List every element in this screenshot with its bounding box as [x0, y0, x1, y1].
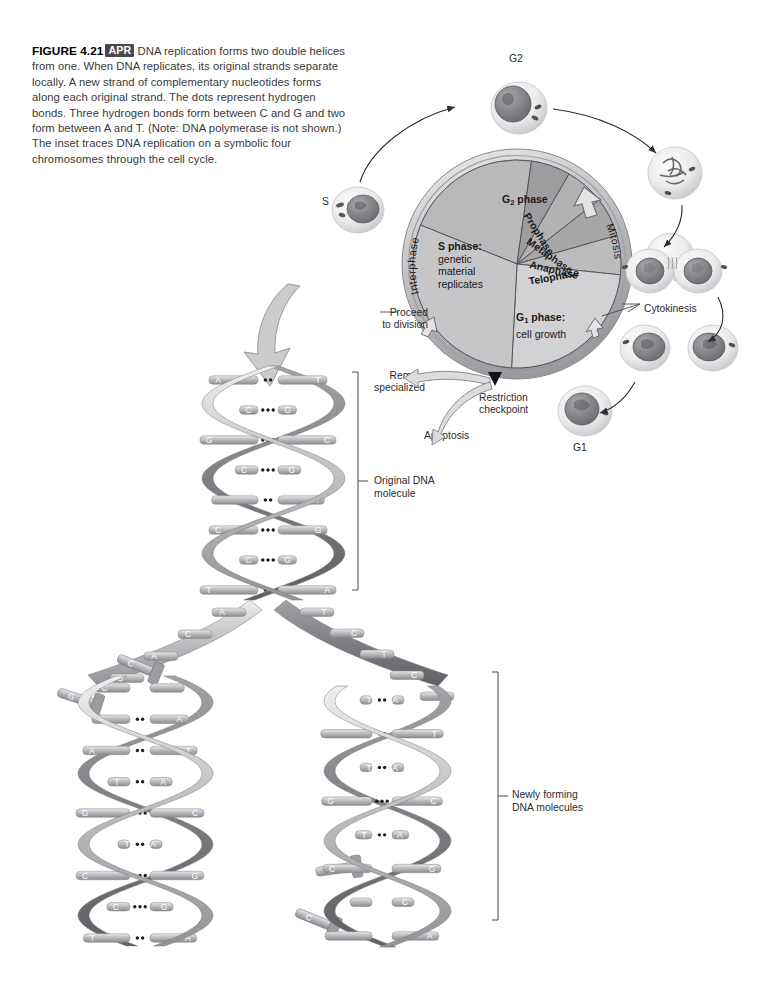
svg-text:C: C — [192, 808, 198, 818]
label-newly-forming-dna: Newly formingDNA molecules — [512, 789, 583, 814]
svg-text:A: A — [150, 839, 156, 849]
fork-base-right-3: C — [390, 670, 424, 680]
cell-caption-s: S — [322, 196, 329, 207]
svg-text:G: G — [82, 808, 89, 818]
cell-g2-phase — [491, 82, 547, 134]
svg-text:C: C — [329, 864, 335, 874]
right-helix-strand-front — [324, 686, 451, 947]
cell-cytokinesis — [621, 234, 727, 293]
svg-text:A: A — [427, 931, 433, 941]
svg-text:T: T — [366, 695, 371, 705]
svg-text:A: A — [219, 607, 225, 617]
svg-text:T: T — [362, 830, 367, 840]
base-pair-original-1: CG — [239, 405, 296, 415]
svg-text:T: T — [114, 777, 119, 787]
svg-text:A: A — [177, 714, 183, 724]
svg-text:G: G — [206, 435, 213, 445]
svg-text:A: A — [397, 830, 403, 840]
base-pair-left-0: C — [96, 683, 185, 693]
svg-text:C: C — [351, 628, 357, 638]
dna-replication-illustration: ATCGGCCGACGCGTAACAGTCTCGCGCCCTAATTAGCTAC… — [0, 300, 774, 988]
base-pair-right-0: TA — [360, 695, 404, 705]
svg-text:G: G — [284, 405, 291, 415]
svg-text:G: G — [192, 871, 199, 881]
original-strand-back — [202, 366, 345, 600]
svg-text:C: C — [411, 670, 417, 680]
svg-text:T: T — [206, 585, 211, 595]
base-pair-original-3: CG — [235, 465, 301, 475]
svg-text:C: C — [245, 555, 251, 565]
svg-text:C: C — [185, 629, 191, 639]
base-pair-right-4: TA — [355, 830, 409, 840]
fork-base-left-1: C — [178, 629, 212, 639]
svg-text:A: A — [160, 777, 166, 787]
svg-text:A: A — [151, 651, 157, 661]
fork-base-left-0: A — [212, 607, 246, 617]
svg-text:T: T — [124, 839, 129, 849]
svg-text:T: T — [316, 375, 321, 385]
svg-text:C: C — [430, 796, 436, 806]
base-pair-original-6: CG — [239, 555, 296, 565]
svg-text:C: C — [113, 902, 119, 912]
base-pair-right-6: C — [350, 897, 414, 907]
figure-caption-text: DNA replication forms two double helices… — [32, 45, 345, 165]
svg-text:A: A — [215, 375, 221, 385]
figure-number: FIGURE 4.21 — [32, 44, 103, 58]
svg-text:T: T — [90, 933, 95, 943]
base-pair-left-7: CG — [107, 902, 173, 912]
apr-badge: APR — [105, 44, 134, 57]
svg-text:G: G — [161, 902, 168, 912]
svg-text:G: G — [315, 525, 322, 535]
right-helix-strand-back — [324, 686, 451, 947]
fork-base-right-1: C — [330, 628, 364, 638]
base-pair-right-2: TA — [360, 763, 404, 773]
svg-text:G: G — [327, 796, 334, 806]
svg-text:C: C — [324, 435, 330, 445]
svg-text:C: C — [82, 871, 88, 881]
dna-brackets — [352, 372, 508, 920]
svg-text:G: G — [284, 555, 291, 565]
base-pair-left-5: TA — [118, 839, 162, 849]
svg-text:T: T — [381, 649, 386, 659]
svg-text:C: C — [245, 405, 251, 415]
svg-text:A: A — [324, 585, 330, 595]
svg-text:A: A — [89, 746, 95, 756]
cell-s-phase — [332, 187, 384, 233]
svg-text:T: T — [366, 763, 371, 773]
fork-base-right-2: T — [360, 649, 394, 659]
original-strand-front — [202, 366, 345, 600]
cell-mitosis — [648, 147, 702, 199]
base-pair-left-3: TA — [108, 777, 172, 787]
svg-text:C: C — [215, 525, 221, 535]
fork-base-right-0: T — [300, 607, 334, 617]
fork-base-left-2: A — [144, 651, 178, 661]
svg-text:C: C — [241, 465, 247, 475]
svg-text:G: G — [289, 465, 296, 475]
svg-text:C: C — [402, 897, 408, 907]
svg-text:A: A — [392, 695, 398, 705]
cell-caption-g2: G2 — [509, 53, 523, 64]
svg-text:T: T — [321, 607, 326, 617]
svg-text:G: G — [429, 864, 436, 874]
svg-text:A: A — [392, 763, 398, 773]
label-original-dna-molecule: Original DNAmolecule — [374, 475, 435, 500]
svg-text:T: T — [432, 729, 437, 739]
